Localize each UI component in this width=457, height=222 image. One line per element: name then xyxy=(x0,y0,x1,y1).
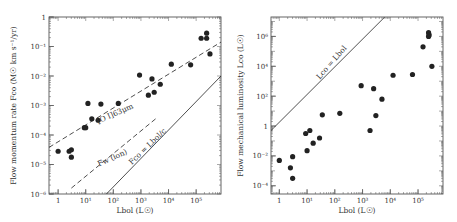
y-tick-label: 10⁻⁴ xyxy=(31,132,47,140)
data-point xyxy=(373,113,378,118)
x-tick-label: 10⁵ xyxy=(190,197,202,205)
line-lco-lbol xyxy=(271,17,385,131)
line-o-i-63-m xyxy=(49,42,221,147)
reference-lines xyxy=(49,42,221,194)
data-point xyxy=(359,83,364,88)
data-point xyxy=(85,101,90,106)
y-tick-label: 10⁻² xyxy=(253,152,269,160)
data-point xyxy=(311,141,316,146)
data-point xyxy=(152,90,157,95)
data-point xyxy=(69,147,74,152)
y-tick-label: 10⁻⁴ xyxy=(253,182,269,190)
data-point xyxy=(199,36,204,41)
data-point xyxy=(420,44,425,49)
data-point xyxy=(137,73,142,78)
data-point xyxy=(320,112,325,117)
right-panel-mechanical-luminosity: 110¹10²10³10⁴10⁵10⁶10⁴10²110⁻²10⁻⁴Lbol (… xyxy=(236,17,443,215)
line-annotation: Fco = Lbol/c xyxy=(127,126,168,166)
line-annotation: Lco = Lbol xyxy=(315,43,349,81)
data-point xyxy=(410,72,415,77)
y-tick-label: 10⁻⁵ xyxy=(31,161,47,169)
data-point xyxy=(204,31,209,36)
y-axis-label: Flow mechanical luminosity Lco (L☉) xyxy=(236,34,245,177)
data-point xyxy=(317,135,322,140)
data-point xyxy=(390,73,395,78)
reference-lines xyxy=(271,17,385,131)
x-tick-label: 10³ xyxy=(357,197,369,205)
data-point xyxy=(98,101,103,106)
minor-ticks xyxy=(271,17,443,194)
x-tick-label: 10² xyxy=(329,197,341,205)
plot-frame xyxy=(49,17,221,194)
y-tick-label: 1 xyxy=(264,123,268,131)
y-axis-label: Flow momentum rate Fco (M☉ km s⁻¹/yr) xyxy=(9,26,18,185)
x-tick-label: 1 xyxy=(56,197,60,205)
data-point xyxy=(427,32,432,37)
data-point xyxy=(158,82,163,87)
data-point xyxy=(277,158,282,163)
data-point xyxy=(307,128,312,133)
data-point xyxy=(146,93,151,98)
data-point xyxy=(188,62,193,67)
line-annotation: Fw (ion) xyxy=(96,147,129,168)
data-point xyxy=(288,165,293,170)
data-point xyxy=(204,36,209,41)
y-tick-label: 10⁴ xyxy=(256,63,268,71)
x-axis-label: Lbol (L☉) xyxy=(339,206,376,215)
data-points xyxy=(277,30,435,181)
data-point xyxy=(304,148,309,153)
data-point xyxy=(207,51,212,56)
data-point xyxy=(379,97,384,102)
data-point xyxy=(69,155,74,160)
x-tick-label: 10³ xyxy=(135,197,147,205)
data-point xyxy=(367,128,372,133)
data-point xyxy=(290,176,295,181)
left-panel-momentum-rate: 110¹10²10³10⁴10⁵110⁻¹10⁻²10⁻³10⁻⁴10⁻⁵10⁻… xyxy=(9,14,221,216)
data-point xyxy=(56,149,61,154)
y-tick-label: 10⁻⁶ xyxy=(31,191,47,199)
x-tick-label: 10⁴ xyxy=(163,197,175,205)
plot-frame xyxy=(271,17,443,194)
x-tick-label: 1 xyxy=(277,197,281,205)
x-tick-label: 10⁵ xyxy=(412,197,424,205)
figure: 110¹10²10³10⁴10⁵110⁻¹10⁻²10⁻³10⁻⁴10⁻⁵10⁻… xyxy=(0,0,457,222)
data-point xyxy=(303,131,308,136)
y-tick-label: 10⁻¹ xyxy=(31,43,47,51)
y-tick-label: 10⁻³ xyxy=(31,102,47,110)
y-tick-label: 10⁻² xyxy=(31,73,47,81)
x-tick-label: 10¹ xyxy=(80,197,92,205)
data-point xyxy=(89,116,94,121)
data-point xyxy=(116,101,121,106)
y-tick-label: 10⁶ xyxy=(256,33,268,41)
x-axis-label: Lbol (L☉) xyxy=(117,206,154,215)
data-point xyxy=(149,76,154,81)
data-point xyxy=(371,86,376,91)
x-tick-label: 10⁴ xyxy=(384,197,396,205)
data-point xyxy=(290,154,295,159)
data-point xyxy=(169,62,174,67)
minor-ticks xyxy=(49,17,221,194)
x-tick-label: 10¹ xyxy=(301,197,313,205)
x-tick-label: 10² xyxy=(107,197,119,205)
data-point xyxy=(337,111,342,116)
data-point xyxy=(429,64,434,69)
data-point xyxy=(83,125,88,130)
y-tick-label: 1 xyxy=(42,14,46,22)
y-tick-label: 10² xyxy=(256,93,268,101)
